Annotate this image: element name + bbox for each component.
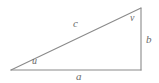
base-side-label: a	[76, 71, 82, 82]
vertical-side-label: b	[146, 34, 152, 45]
hypotenuse-label: c	[73, 18, 78, 29]
angle-left-label: u	[32, 56, 37, 66]
angle-top-label: v	[130, 13, 134, 23]
triangle-figure: c v b u a	[0, 0, 159, 83]
